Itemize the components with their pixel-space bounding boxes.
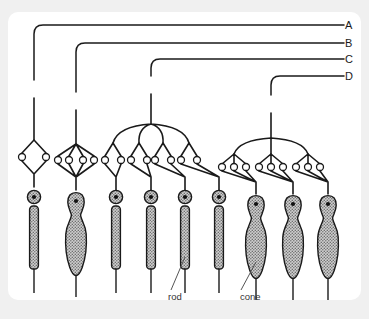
receptor-rod-4 bbox=[144, 190, 157, 293]
dendrite-trees bbox=[22, 94, 320, 164]
axon-label-a: A bbox=[345, 20, 352, 31]
axon-b bbox=[76, 43, 344, 92]
receptor-cone-8 bbox=[283, 196, 304, 300]
receptor-cone-9 bbox=[318, 196, 339, 300]
receptor-rod-5 bbox=[178, 190, 191, 293]
dendrite-c-branches bbox=[113, 124, 189, 143]
receptor-rod-1 bbox=[27, 190, 40, 293]
receptor-rod-6 bbox=[212, 190, 225, 293]
ganglion-axons bbox=[34, 25, 344, 95]
dendrite-a-fork bbox=[22, 140, 46, 153]
dendrite-b-fork bbox=[58, 144, 94, 156]
dendrite-d-forks bbox=[222, 154, 320, 164]
caption-rod: rod bbox=[168, 292, 182, 302]
receptor-rod-3 bbox=[109, 190, 122, 293]
receptor-cone-7 bbox=[246, 196, 267, 300]
axon-label-d: D bbox=[345, 71, 353, 82]
dendrite-c-forks bbox=[105, 143, 197, 156]
axon-label-c: C bbox=[345, 54, 353, 65]
dendrite-d-branches bbox=[234, 138, 308, 154]
receptor-cone-2 bbox=[66, 193, 87, 297]
axon-d bbox=[271, 76, 344, 95]
axon-label-b: B bbox=[345, 38, 352, 49]
axon-a bbox=[34, 25, 344, 80]
rod-leader-line bbox=[171, 257, 185, 290]
axon-c bbox=[151, 59, 344, 76]
retina-circuit-diagram bbox=[8, 12, 361, 300]
caption-cone: cone bbox=[240, 292, 261, 302]
figure-card: rod cone A B C D bbox=[8, 12, 361, 300]
photoreceptors bbox=[27, 190, 338, 300]
